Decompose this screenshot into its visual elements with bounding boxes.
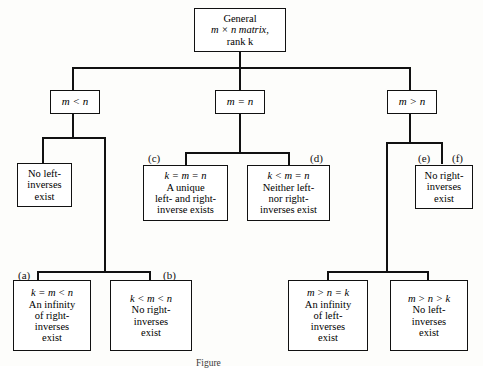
outcome-box-case-a: k = m < n An infinity of right- inverses… [13, 280, 91, 351]
case-b-line-2: inverses [134, 316, 168, 327]
branch-label-m-gt-n: m > n [399, 96, 425, 108]
case-g-line-2: of left- [314, 310, 343, 321]
case-c-line-3: inverse exists [157, 204, 214, 215]
case-c-condition: k = m = n [164, 170, 206, 181]
branch-box-m-gt-n: m > n [387, 90, 437, 114]
case-tag-f: (f) [452, 152, 463, 164]
case-c-line-2: left- and right- [155, 193, 216, 204]
outcome-box-case-d: k < m = n Neither left- nor right- inver… [247, 165, 330, 221]
branch-label-m-eq-n: m = n [227, 96, 253, 108]
no-right-line-1: No right- [425, 170, 464, 181]
no-right-line-3: exist [434, 193, 454, 204]
case-b-condition: k < m < n [130, 293, 172, 304]
no-left-line-2: inverses [27, 179, 61, 190]
case-h-condition: m > n > k [408, 293, 450, 304]
case-g-line-3: inverses [311, 321, 345, 332]
branch-label-m-lt-n: m < n [62, 96, 88, 108]
root-box: General m × n matrix, rank k [194, 8, 286, 52]
case-h-line-1: No left- [413, 304, 446, 315]
case-b-line-1: No right- [132, 304, 171, 315]
case-h-line-2: inverses [412, 316, 446, 327]
case-a-line-4: exist [42, 332, 62, 343]
outcome-box-case-c: k = m = n A unique left- and right- inve… [143, 165, 228, 221]
outcome-box-no-left-inverses: No left- inverses exist [17, 163, 72, 207]
case-g-line-1: An infinity [305, 299, 351, 310]
root-line-2: m × n matrix, [211, 24, 269, 35]
case-b-line-3: exist [141, 327, 161, 338]
case-tag-d: (d) [310, 152, 323, 164]
case-a-line-1: An infinity [29, 299, 75, 310]
case-g-line-4: exist [318, 332, 338, 343]
case-d-condition: k < m = n [267, 170, 309, 181]
case-d-line-1: Neither left- [263, 182, 315, 193]
no-left-line-3: exist [35, 191, 55, 202]
case-d-line-2: nor right- [269, 193, 309, 204]
case-tag-e: (e) [418, 152, 430, 164]
outcome-box-case-b: k < m < n No right- inverses exist [110, 280, 192, 351]
case-d-line-3: inverses exist [260, 204, 317, 215]
branch-box-m-eq-n: m = n [215, 90, 265, 114]
branch-box-m-lt-n: m < n [50, 90, 100, 114]
outcome-box-case-g: m > n = k An infinity of left- inverses … [288, 280, 368, 351]
case-a-line-2: of right- [35, 310, 70, 321]
outcome-box-no-right-inverses: No right- inverses exist [415, 165, 473, 209]
case-h-line-3: exist [419, 327, 439, 338]
outcome-box-case-h: m > n > k No left- inverses exist [390, 280, 468, 351]
case-a-line-3: inverses [35, 321, 69, 332]
case-g-condition: m > n = k [307, 287, 349, 298]
case-a-condition: k = m < n [31, 287, 73, 298]
root-line-3: rank k [227, 36, 254, 47]
no-left-line-1: No left- [28, 168, 61, 179]
root-line-1: General [223, 13, 256, 24]
case-c-line-1: A unique [166, 182, 204, 193]
case-tag-c: (c) [148, 152, 160, 164]
figure-caption: Figure [196, 358, 221, 368]
no-right-line-2: inverses [427, 181, 461, 192]
